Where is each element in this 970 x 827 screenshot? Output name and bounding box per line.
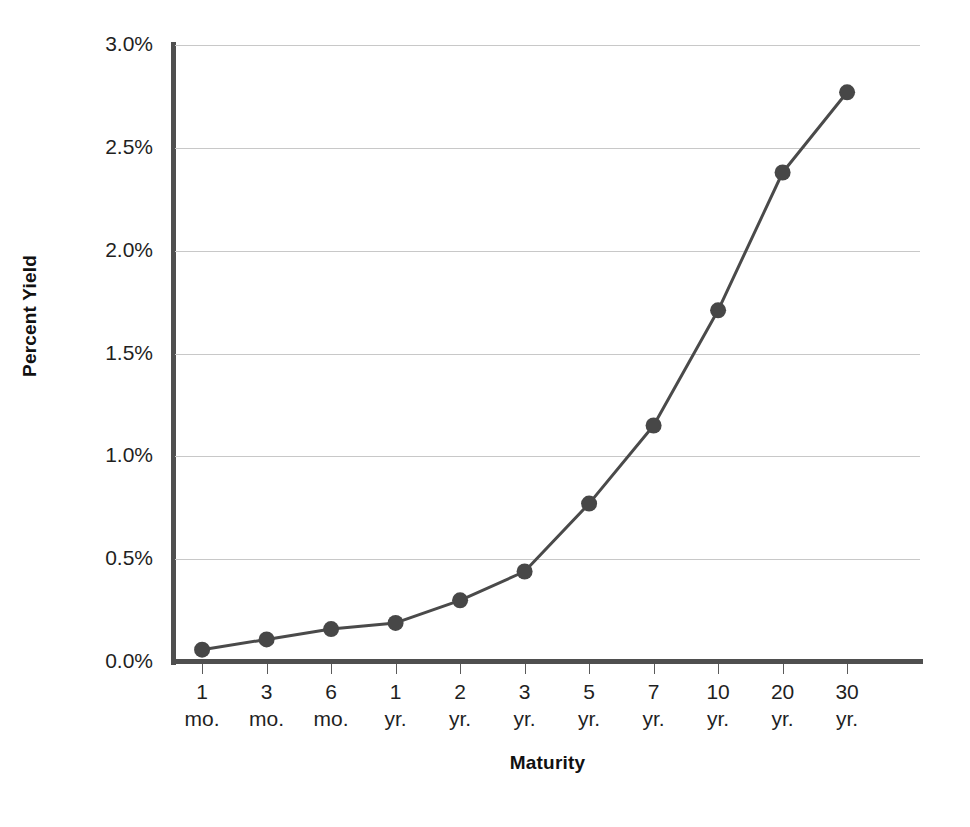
x-tick-label-value: 3 xyxy=(261,680,273,703)
x-tick-mark xyxy=(589,664,590,674)
x-tick-label-value: 7 xyxy=(648,680,660,703)
x-tick-label-value: 30 xyxy=(835,680,858,703)
x-tick-mark xyxy=(396,664,397,674)
x-tick-mark xyxy=(331,664,332,674)
x-tick-mark xyxy=(267,664,268,674)
x-tick-label-value: 5 xyxy=(583,680,595,703)
x-tick-label-value: 1 xyxy=(390,680,402,703)
x-tick-label-unit: yr. xyxy=(802,705,892,732)
yield-curve-chart: Percent Yield Maturity 0.0%0.5%1.0%1.5%2… xyxy=(0,0,970,827)
x-tick-label-value: 1 xyxy=(196,680,208,703)
x-tick-label-value: 6 xyxy=(325,680,337,703)
x-tick-label: 30yr. xyxy=(802,678,892,732)
x-tick-mark xyxy=(525,664,526,674)
x-tick-label-value: 20 xyxy=(771,680,794,703)
x-tick-mark xyxy=(460,664,461,674)
x-tick-label-value: 3 xyxy=(519,680,531,703)
x-axis-tick-labels: 1mo.3mo.6mo.1yr.2yr.3yr.5yr.7yr.10yr.20y… xyxy=(0,0,970,827)
x-tick-mark xyxy=(202,664,203,674)
x-tick-label-value: 10 xyxy=(706,680,729,703)
x-tick-mark xyxy=(783,664,784,674)
x-tick-mark xyxy=(718,664,719,674)
x-tick-mark xyxy=(847,664,848,674)
x-tick-label-value: 2 xyxy=(454,680,466,703)
x-tick-mark xyxy=(654,664,655,674)
